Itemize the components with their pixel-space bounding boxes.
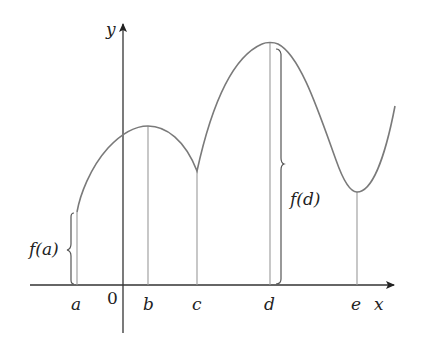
function-graph: y x 0 a b c d e f(a) f(d) [0,0,421,344]
brace-f-d [276,49,284,284]
tick-label-b: b [143,294,154,314]
tick-label-a: a [71,294,81,314]
guide-lines [77,42,357,285]
tick-label-e: e [351,294,361,314]
function-curve [77,43,395,213]
tick-label-d: d [264,294,275,314]
tick-label-c: c [192,294,202,314]
annotation-f-a: f(a) [27,239,59,259]
x-axis-label: x [374,294,384,314]
annotation-f-d: f(d) [288,189,320,209]
y-axis-label: y [105,19,116,39]
origin-label: 0 [107,288,118,308]
brace-f-a [67,213,74,284]
